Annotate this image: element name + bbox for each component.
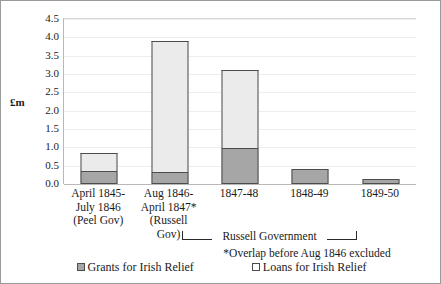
y-tick-0-0: 0.0: [45, 178, 59, 189]
loans-swatch-icon: [252, 263, 260, 271]
x-tick-label-line: April 1845-: [58, 187, 138, 201]
bar-segment-grants[interactable]: [151, 172, 188, 184]
plot-area: [63, 18, 416, 184]
bar-stack[interactable]: [81, 153, 118, 184]
bar-slot: [64, 19, 134, 184]
russell-government-bracket: Russell Government: [182, 231, 357, 245]
y-tick-1-0: 1.0: [45, 141, 59, 152]
x-tick-label-line: (Peel Gov): [58, 214, 138, 228]
legend-item[interactable]: Grants for Irish Relief: [77, 260, 194, 274]
x-tick-label-line: April 1847*: [129, 201, 209, 215]
x-tick-label: 1849-50: [340, 187, 420, 201]
footnote-text: *Overlap before Aug 1846 excluded: [182, 247, 432, 260]
y-tick-4-0: 4.0: [45, 31, 59, 42]
x-tick-label-line: 1849-50: [340, 187, 420, 201]
y-tick-2-5: 2.5: [45, 86, 59, 97]
x-tick-label-line: (Russell: [129, 214, 209, 228]
x-tick-label-line: 1847-48: [199, 187, 279, 201]
x-tick-label-line: July 1846: [58, 201, 138, 215]
bar-slot: [275, 19, 345, 184]
bracket-label: Russell Government: [182, 230, 357, 243]
bar-slot: [134, 19, 204, 184]
chart-legend: Grants for Irish ReliefLoans for Irish R…: [1, 260, 441, 274]
bar-stack[interactable]: [292, 169, 329, 184]
bar-segment-loans[interactable]: [81, 153, 118, 171]
bar-stack[interactable]: [362, 179, 399, 184]
x-tick-label: 1848-49: [269, 187, 349, 201]
legend-label: Grants for Irish Relief: [88, 260, 194, 274]
y-tick-3-0: 3.0: [45, 68, 59, 79]
legend-label: Loans for Irish Relief: [263, 260, 367, 274]
y-tick-3-5: 3.5: [45, 49, 59, 60]
x-tick-label: April 1845-July 1846(Peel Gov): [58, 187, 138, 228]
y-tick-2-0: 2.0: [45, 104, 59, 115]
chart-figure: £m 4.54.03.53.02.52.01.51.00.50.0 April …: [0, 0, 441, 284]
y-axis-label: £m: [10, 96, 25, 108]
bar-slot: [346, 19, 416, 184]
legend-item[interactable]: Loans for Irish Relief: [252, 260, 367, 274]
bar-segment-grants[interactable]: [221, 148, 258, 184]
bar-slot: [205, 19, 275, 184]
bar-segment-grants[interactable]: [81, 171, 118, 184]
x-tick-label: 1847-48: [199, 187, 279, 201]
bar-segment-grants[interactable]: [362, 179, 399, 184]
bar-segment-grants[interactable]: [292, 169, 329, 184]
bar-segment-loans[interactable]: [221, 70, 258, 148]
bar-segment-loans[interactable]: [151, 41, 188, 172]
x-tick-label-line: Aug 1846-: [129, 187, 209, 201]
grants-swatch-icon: [77, 263, 85, 271]
y-axis-tick-labels: 4.54.03.53.02.52.01.51.00.50.0: [27, 12, 59, 188]
x-axis-baseline: [64, 184, 416, 185]
y-tick-0-5: 0.5: [45, 159, 59, 170]
bar-stack[interactable]: [221, 70, 258, 184]
bar-stack[interactable]: [151, 41, 188, 184]
y-tick-4-5: 4.5: [45, 13, 59, 24]
x-tick-label-line: 1848-49: [269, 187, 349, 201]
y-tick-1-5: 1.5: [45, 123, 59, 134]
